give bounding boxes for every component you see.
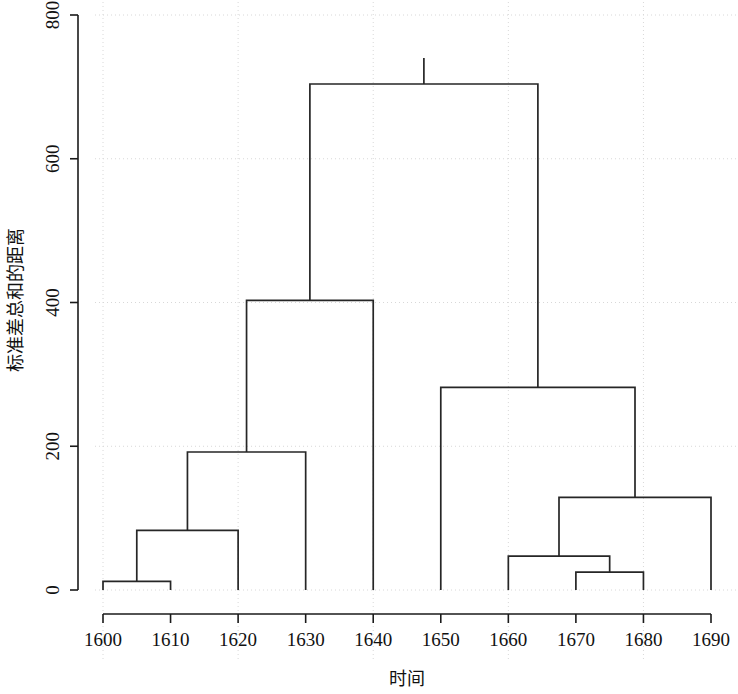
x-tick-label: 1650: [422, 629, 460, 650]
x-axis-title: 时间: [389, 668, 425, 689]
dendrogram-link: [441, 387, 635, 590]
gridlines: [95, 2, 737, 660]
x-axis: [103, 614, 711, 623]
x-tick-label: 1600: [84, 629, 122, 650]
plot-canvas: 0200400600800 16001610162016301640165016…: [0, 0, 738, 694]
dendrogram-link: [508, 556, 609, 590]
y-axis-title: 标准差总和的距离: [5, 228, 26, 372]
dendrogram-link: [247, 300, 374, 590]
x-tick-label: 1670: [557, 629, 595, 650]
y-tick-labels: 0200400600800: [42, 1, 63, 595]
x-tick-label: 1640: [354, 629, 392, 650]
dendrogram-link: [310, 84, 538, 387]
x-tick-label: 1680: [624, 629, 662, 650]
x-tick-label: 1690: [692, 629, 730, 650]
x-tick-label: 1620: [219, 629, 257, 650]
y-tick-label: 400: [42, 288, 63, 317]
dendrogram-link: [559, 497, 711, 590]
x-tick-label: 1660: [489, 629, 527, 650]
y-tick-label: 800: [42, 1, 63, 30]
dendrogram-chart: 0200400600800 16001610162016301640165016…: [0, 0, 738, 694]
x-tick-labels: 1600161016201630164016501660167016801690: [84, 629, 730, 650]
dendrogram-link: [103, 581, 171, 590]
dendrogram-links: [103, 58, 711, 590]
dendrogram-link: [187, 452, 305, 590]
dendrogram-link: [576, 572, 644, 590]
y-axis: [70, 15, 78, 590]
x-tick-label: 1630: [287, 629, 325, 650]
y-tick-label: 200: [42, 432, 63, 461]
x-tick-label: 1610: [152, 629, 190, 650]
y-tick-label: 600: [42, 145, 63, 174]
y-tick-label: 0: [42, 585, 63, 595]
